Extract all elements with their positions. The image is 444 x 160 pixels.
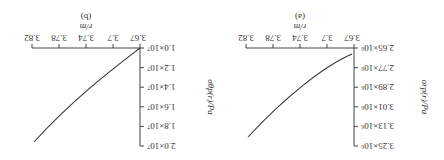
x-tick-labels: 3.67 3.7 3.74 3.78 3.82 bbox=[238, 33, 360, 43]
y-axis-label: σrp(r)/Pa bbox=[420, 80, 430, 115]
svg-text:3.67: 3.67 bbox=[344, 33, 360, 43]
data-line bbox=[34, 48, 140, 142]
svg-text:3.67: 3.67 bbox=[130, 33, 146, 43]
panel-label: (b) bbox=[81, 12, 92, 22]
svg-text:1.2×10⁷: 1.2×10⁷ bbox=[147, 63, 175, 73]
svg-text:3.7: 3.7 bbox=[107, 33, 119, 43]
y-tick-labels: 1.0×10⁷ 1.2×10⁷ 1.4×10⁷ 1.6×10⁷ 1.8×10⁷ … bbox=[147, 43, 175, 151]
svg-text:3.01×10⁶: 3.01×10⁶ bbox=[361, 102, 394, 112]
y-ticks bbox=[354, 48, 358, 146]
svg-text:3.74: 3.74 bbox=[292, 33, 308, 43]
svg-text:1.8×10⁷: 1.8×10⁷ bbox=[147, 121, 175, 131]
svg-text:2.65×10⁶: 2.65×10⁶ bbox=[361, 43, 394, 53]
x-ticks bbox=[32, 44, 140, 48]
panel-label: (a) bbox=[295, 12, 305, 22]
x-axis-label: r/m bbox=[79, 22, 92, 32]
svg-text:2.89×10⁶: 2.89×10⁶ bbox=[361, 82, 394, 92]
data-line bbox=[248, 54, 352, 137]
svg-text:3.74: 3.74 bbox=[78, 33, 94, 43]
svg-text:1.6×10⁷: 1.6×10⁷ bbox=[147, 102, 175, 112]
y-tick-labels: 2.65×10⁶ 2.77×10⁶ 2.89×10⁶ 3.01×10⁶ 3.13… bbox=[361, 43, 394, 151]
x-axis-label: r/m bbox=[293, 22, 306, 32]
svg-text:3.78: 3.78 bbox=[265, 33, 281, 43]
x-ticks bbox=[246, 44, 354, 48]
svg-text:3.82: 3.82 bbox=[24, 33, 40, 43]
chart-b: 1.0×10⁷ 1.2×10⁷ 1.4×10⁷ 1.6×10⁷ 1.8×10⁷ … bbox=[24, 12, 216, 151]
svg-text:2.77×10⁶: 2.77×10⁶ bbox=[361, 63, 394, 73]
svg-text:3.82: 3.82 bbox=[238, 33, 254, 43]
svg-text:3.7: 3.7 bbox=[321, 33, 333, 43]
svg-text:2.0×10⁷: 2.0×10⁷ bbox=[147, 141, 175, 151]
svg-text:3.13×10⁶: 3.13×10⁶ bbox=[361, 121, 394, 131]
charts-svg: 2.65×10⁶ 2.77×10⁶ 2.89×10⁶ 3.01×10⁶ 3.13… bbox=[0, 0, 444, 160]
y-axis-label: σθp(r)/Pa bbox=[206, 79, 216, 115]
svg-text:1.0×10⁷: 1.0×10⁷ bbox=[147, 43, 175, 53]
figure: 2.65×10⁶ 2.77×10⁶ 2.89×10⁶ 3.01×10⁶ 3.13… bbox=[0, 0, 444, 160]
svg-text:3.78: 3.78 bbox=[51, 33, 67, 43]
svg-text:3.25×10⁶: 3.25×10⁶ bbox=[361, 141, 394, 151]
y-ticks bbox=[140, 48, 144, 146]
chart-a: 2.65×10⁶ 2.77×10⁶ 2.89×10⁶ 3.01×10⁶ 3.13… bbox=[238, 12, 430, 151]
x-tick-labels: 3.67 3.7 3.74 3.78 3.82 bbox=[24, 33, 146, 43]
svg-text:1.4×10⁷: 1.4×10⁷ bbox=[147, 82, 175, 92]
